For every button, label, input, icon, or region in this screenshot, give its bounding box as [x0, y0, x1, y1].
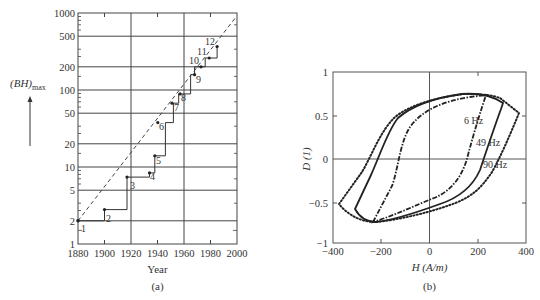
xtick-label: 0 [427, 246, 432, 257]
point-label: 6 [159, 121, 164, 132]
point-label: 3 [130, 180, 135, 191]
ytick-label: 0 [323, 154, 328, 165]
xtick-label: 1900 [94, 248, 115, 259]
ytick-label: 2 [70, 216, 75, 227]
ytick-label: 20 [65, 139, 76, 150]
plot-a-hgrid [78, 36, 237, 221]
xtick-label: 1880 [68, 248, 89, 259]
plot-b-caption: (b) [423, 280, 436, 293]
ytick-label: 5 [70, 185, 75, 196]
point-label: 11 [197, 46, 207, 57]
plot-b-xtick-labels: −400 −200 0 200 400 [322, 246, 534, 257]
curve-label-90hz: 90 Hz [483, 159, 508, 170]
xtick-label: −200 [370, 246, 392, 257]
plot-a-xtick-labels: 1880 1900 1920 1940 1960 1980 2000 [68, 248, 248, 259]
ytick-label: 100 [59, 85, 75, 96]
point-10 [199, 65, 202, 68]
plot-a-xlabel: Year [147, 263, 168, 275]
point-label: 7 [174, 102, 179, 113]
panel-b: 6 Hz 49 Hz 90 Hz 1 0.5 0 −0.5 −1 −400 −2… [300, 67, 534, 293]
xtick-label: 400 [518, 246, 534, 257]
arrow-up-icon [28, 96, 33, 102]
point-12 [216, 45, 219, 48]
xtick-label: 1920 [121, 248, 142, 259]
bhmax-step-line [78, 47, 217, 221]
ytick-label: 1 [323, 67, 328, 78]
ytick-label: 500 [59, 31, 75, 42]
ytick-label: −0.5 [309, 198, 328, 209]
point-3 [125, 176, 128, 179]
point-label: 5 [156, 155, 161, 166]
ytick-label: 10 [65, 162, 76, 173]
point-label: 2 [106, 213, 111, 224]
xtick-label: 1940 [147, 248, 168, 259]
point-label: 9 [196, 74, 201, 85]
point-2 [103, 208, 106, 211]
point-label: 8 [181, 92, 186, 103]
point-label: 1 [81, 223, 86, 234]
point-label: 4 [150, 171, 155, 182]
curve-label-49hz: 49 Hz [476, 137, 501, 148]
plot-a-ytick-labels: 1000 500 200 100 50 20 10 5 2 1 [54, 8, 75, 250]
xtick-label: 1960 [174, 248, 195, 259]
ytick-label: 50 [65, 108, 76, 119]
plot-b-ylabel: D (1) [300, 147, 313, 172]
xtick-label: 1980 [200, 248, 221, 259]
plot-a-caption: (a) [151, 280, 164, 293]
curve-label-6hz: 6 Hz [464, 115, 484, 126]
xtick-label: 200 [470, 246, 486, 257]
point-labels: 1 2 3 4 5 6 7 8 9 10 11 12 [81, 36, 215, 234]
xtick-label: 2000 [227, 248, 248, 259]
plot-a-ylabel: (BH)max [10, 77, 46, 92]
ytick-label: 1000 [54, 8, 75, 19]
plot-a-frame [78, 13, 237, 244]
ytick-label: 0.5 [315, 111, 328, 122]
point-label: 12 [205, 36, 215, 47]
plot-a-vgrid [131, 13, 184, 244]
point-11 [208, 56, 211, 59]
panel-a: 1 2 3 4 5 6 7 8 9 10 11 12 1000 500 200 … [10, 8, 248, 293]
ytick-label: 200 [59, 62, 75, 73]
point-1 [76, 219, 80, 223]
xtick-label: −400 [322, 246, 344, 257]
plot-b-xlabel: H (A/m) [411, 261, 448, 274]
